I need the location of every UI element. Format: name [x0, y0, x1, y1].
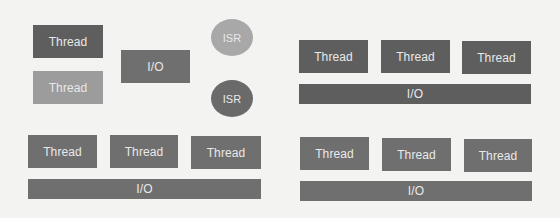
thread-block: Thread: [382, 138, 451, 171]
isr-circle-1: ISR: [211, 19, 253, 56]
thread-block: Thread: [191, 136, 261, 169]
thread-block: Thread: [381, 40, 450, 73]
thread-block: Thread: [464, 139, 532, 172]
io-block: I/O: [121, 50, 190, 83]
thread-block: Thread: [300, 137, 369, 170]
thread-block: Thread: [462, 41, 531, 74]
io-bar: I/O: [28, 179, 261, 199]
thread-block: Thread: [28, 135, 97, 168]
thread-block-2: Thread: [33, 71, 103, 104]
io-bar: I/O: [300, 181, 532, 201]
io-bar: I/O: [299, 84, 531, 104]
thread-block: Thread: [299, 40, 368, 73]
thread-block-1: Thread: [33, 25, 103, 58]
isr-circle-2: ISR: [211, 80, 253, 117]
thread-block: Thread: [110, 135, 178, 168]
